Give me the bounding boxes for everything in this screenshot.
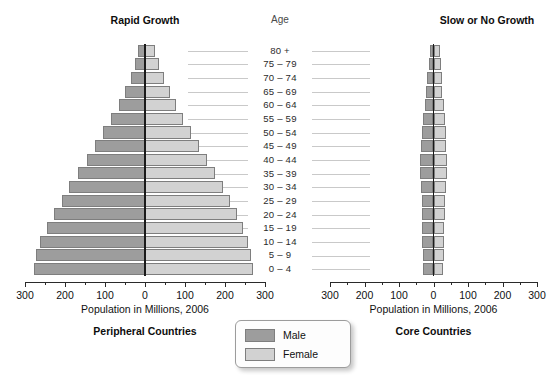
x-tick-major [537,282,538,287]
age-band-label: 10 – 14 [261,237,298,247]
bar-female [145,167,215,179]
x-tick-minor [125,282,126,285]
bar-female [145,222,243,234]
x-tick-label: 300 [256,289,274,301]
age-band-row: 30 – 34 [248,180,312,193]
age-band-row: 40 – 44 [248,153,312,166]
bar-male [422,126,434,138]
bar-female [145,86,170,98]
age-band-label: 35 – 39 [261,169,298,179]
bar-female [434,154,447,166]
x-tick-label: 300 [16,289,34,301]
bar-male [34,263,145,275]
age-band-row: 55 – 59 [248,112,312,125]
bar-male [47,222,145,234]
heading-age: Age [250,14,310,25]
bar-female [434,181,446,193]
x-tick-label: 100 [459,289,477,301]
bar-female [145,113,183,125]
bar-female [145,126,191,138]
age-band-label: 30 – 34 [261,182,298,192]
x-tick-major [185,282,186,287]
age-band-row: 5 – 9 [248,249,312,262]
bar-female [145,99,176,111]
age-band-label: 70 – 74 [261,73,298,83]
bar-male [421,140,433,152]
bar-female [145,195,230,207]
x-tick-major [65,282,66,287]
x-tick-label: 0 [142,289,148,301]
bar-male [40,236,145,248]
age-band-label: 0 – 4 [267,264,293,274]
bar-female [434,222,445,234]
x-tick-minor [416,282,417,285]
x-tick-label: 100 [96,289,114,301]
legend-item-female: Female [245,346,350,362]
x-tick-major [434,282,435,287]
bar-male [95,140,145,152]
x-tick-label: 200 [494,289,512,301]
bar-male [78,167,145,179]
axis-caption-left: Population in Millions, 2006 [25,303,265,315]
axis-caption-right: Population in Millions, 2006 [330,303,537,315]
x-tick-minor [485,282,486,285]
bar-female [145,249,251,261]
age-band-label: 40 – 44 [261,155,298,165]
age-band-label: 60 – 64 [261,100,298,110]
legend-swatch-female [245,348,275,361]
bar-male [54,208,145,220]
age-band-label: 25 – 29 [261,196,298,206]
bar-female [145,181,223,193]
bar-female [434,126,446,138]
zero-axis-line [144,44,145,276]
bar-male [69,181,145,193]
bar-female [145,154,207,166]
bar-male [119,99,145,111]
x-tick-major [265,282,266,287]
age-band-label: 45 – 49 [261,141,298,151]
bar-male [36,249,145,261]
legend-label-male: Male [283,330,306,341]
bar-female [434,113,445,125]
x-tick-minor [85,282,86,285]
bar-male [111,113,145,125]
panel-caption-core: Core Countries [330,325,537,337]
x-tick-label: 100 [176,289,194,301]
age-band-label: 65 – 69 [261,87,298,97]
age-band-label: 55 – 59 [261,114,298,124]
age-band-row: 45 – 49 [248,140,312,153]
bar-female [434,99,444,111]
bar-female [434,263,444,275]
age-band-row: 75 – 79 [248,58,312,71]
x-tick-label: 300 [321,289,339,301]
bar-male [420,154,433,166]
bar-female [145,58,159,70]
legend-item-male: Male [245,327,350,343]
bar-male [131,72,145,84]
x-tick-label: 300 [528,289,546,301]
bar-female [145,45,155,57]
x-tick-minor [205,282,206,285]
x-tick-label: 200 [56,289,74,301]
x-tick-label: 200 [356,289,374,301]
legend-label-female: Female [283,349,318,360]
bar-female [434,72,442,84]
age-band-label: 20 – 24 [261,210,298,220]
age-band-row: 60 – 64 [248,99,312,112]
x-tick-major [330,282,331,287]
bar-female [434,249,444,261]
bar-male [125,86,145,98]
x-tick-minor [451,282,452,285]
age-band-row: 20 – 24 [248,208,312,221]
heading-slow-growth: Slow or No Growth [362,14,557,26]
bar-male [422,222,433,234]
x-tick-minor [45,282,46,285]
bar-female [145,140,199,152]
bar-female [145,236,248,248]
bar-male [422,195,434,207]
x-tick-minor [382,282,383,285]
x-tick-major [399,282,400,287]
bar-female [434,167,447,179]
bar-male [62,195,145,207]
bar-female [434,86,443,98]
